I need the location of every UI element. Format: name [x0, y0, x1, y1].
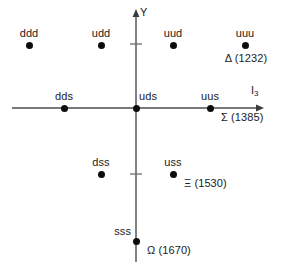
node-marker	[98, 171, 105, 178]
node-label-uus: uus	[201, 91, 219, 102]
baryon-decuplet-diagram: Y I3 ddd udd uud uuu Δ (1232) dds uds uu…	[0, 0, 288, 273]
axes-group	[0, 0, 288, 273]
node-label-sss: sss	[114, 226, 131, 237]
node-label-dss: dss	[92, 157, 109, 168]
node-label-uud: uud	[164, 28, 183, 39]
node-label-uuu: uuu	[236, 28, 255, 39]
node-label-udd: udd	[92, 28, 111, 39]
node-marker	[61, 105, 68, 112]
node-marker	[98, 42, 105, 49]
resonance-label-sigma: Σ (1385)	[221, 112, 263, 123]
node-label-uss: uss	[164, 157, 181, 168]
node-label-uds: uds	[139, 91, 157, 102]
node-label-ddd: ddd	[20, 28, 39, 39]
resonance-label-xi: Ξ (1530)	[184, 178, 227, 189]
node-label-dds: dds	[55, 91, 73, 102]
node-marker	[133, 238, 140, 245]
node-marker	[133, 105, 140, 112]
node-marker	[170, 171, 177, 178]
node-marker	[207, 105, 214, 112]
node-marker	[26, 42, 33, 49]
y-axis-label: Y	[140, 7, 147, 18]
y-axis-arrowhead	[133, 9, 140, 17]
node-marker	[170, 42, 177, 49]
resonance-label-omega: Ω (1670)	[147, 245, 191, 256]
resonance-label-delta: Δ (1232)	[225, 53, 267, 64]
i3-axis-label: I3	[251, 85, 259, 97]
node-marker	[242, 42, 249, 49]
